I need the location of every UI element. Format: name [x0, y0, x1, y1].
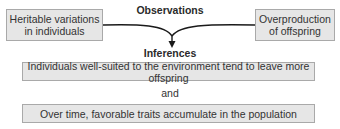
inferences-heading: Inferences	[120, 47, 220, 59]
observation-box-heritable-variations: Heritable variations in individuals	[6, 9, 103, 41]
observation-text-line1: Overproduction	[259, 13, 331, 25]
observations-heading: Observations	[120, 4, 220, 16]
inference-text: Over time, favorable traits accumulate i…	[40, 108, 297, 120]
right-connector-line	[172, 25, 255, 36]
inference-box-favorable-traits: Over time, favorable traits accumulate i…	[22, 104, 315, 123]
observation-text-line2: in individuals	[10, 25, 100, 37]
observation-text-line1: Heritable variations	[10, 13, 100, 25]
inference-connector-and: and	[150, 87, 190, 99]
inference-text: Individuals well-suited to the environme…	[23, 60, 314, 84]
observation-box-overproduction: Overproduction of offspring	[255, 9, 335, 41]
observation-text-line2: of offspring	[259, 25, 331, 37]
left-connector-line	[103, 25, 172, 36]
inference-box-well-suited: Individuals well-suited to the environme…	[22, 62, 315, 81]
